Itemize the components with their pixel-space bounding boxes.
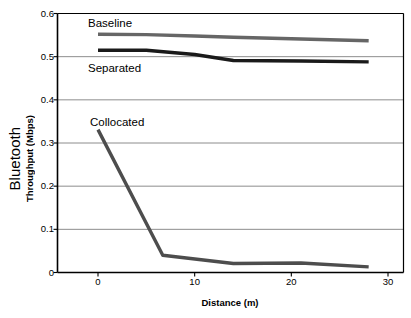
- series-label-separated: Separated: [88, 62, 141, 74]
- series-line-collocated: [98, 130, 369, 267]
- y-tick-label: 0.3: [32, 138, 54, 148]
- y-axis-label-main: Bluetooth: [6, 127, 23, 190]
- series-label-baseline: Baseline: [88, 17, 132, 29]
- axis-tick-marks: [54, 14, 389, 277]
- chart-figure: Bluetooth Throughput (Mbps) 00.10.20.30.…: [0, 0, 411, 318]
- y-tick-label: 0.5: [32, 52, 54, 62]
- x-tick-label: 20: [276, 276, 306, 287]
- y-tick-label: 0.4: [32, 95, 54, 105]
- y-tick-label: 0.1: [32, 224, 54, 234]
- x-axis-tick-labels: 0102030: [0, 276, 411, 290]
- series-line-separated: [98, 50, 369, 62]
- plot-area: [0, 0, 411, 318]
- y-tick-label: 0.2: [32, 181, 54, 191]
- x-axis-label: Distance (m): [57, 297, 403, 308]
- y-tick-label: 0.6: [32, 9, 54, 19]
- series-label-collocated: Collocated: [90, 116, 144, 128]
- x-tick-label: 10: [180, 276, 210, 287]
- series-line-baseline: [98, 34, 369, 40]
- x-tick-label: 30: [373, 276, 403, 287]
- x-tick-label: 0: [83, 276, 113, 287]
- y-axis-tick-labels: 00.10.20.30.40.50.6: [30, 0, 54, 318]
